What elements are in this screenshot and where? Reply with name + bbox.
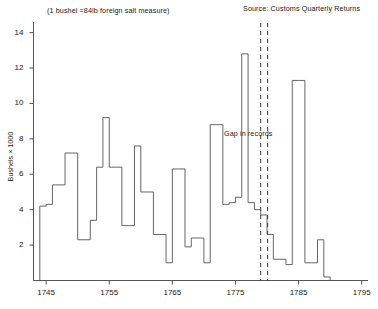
y-tick-label: 2 bbox=[8, 240, 24, 249]
x-tick-label: 1765 bbox=[152, 288, 192, 297]
y-tick-label: 10 bbox=[8, 98, 24, 107]
y-tick-label: 12 bbox=[8, 63, 24, 72]
y-tick-label: 8 bbox=[8, 134, 24, 143]
y-tick-label: 14 bbox=[8, 28, 24, 37]
x-tick-label: 1785 bbox=[279, 288, 319, 297]
x-tick-label: 1755 bbox=[89, 288, 129, 297]
y-axis-ticks bbox=[30, 33, 34, 245]
x-tick-label: 1745 bbox=[26, 288, 66, 297]
x-tick-label: 1775 bbox=[215, 288, 255, 297]
x-axis-ticks bbox=[46, 281, 362, 285]
x-tick-label: 1795 bbox=[342, 288, 378, 297]
salt-imports-step-line bbox=[40, 54, 330, 281]
chart-plot-area bbox=[0, 0, 378, 309]
salt-imports-chart-figure: (1 bushel =84lb foreign salt measure) So… bbox=[0, 0, 378, 309]
gap-dashed-lines bbox=[261, 23, 268, 281]
y-tick-label: 6 bbox=[8, 169, 24, 178]
y-tick-label: 4 bbox=[8, 205, 24, 214]
